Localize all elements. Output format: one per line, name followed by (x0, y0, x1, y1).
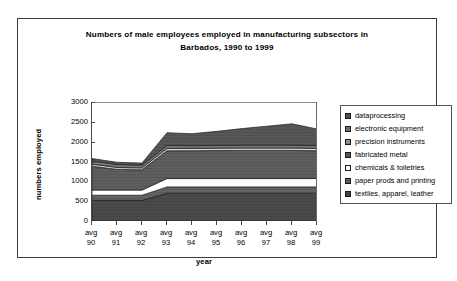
legend-item[interactable]: precision instruments (344, 135, 448, 148)
y-axis-tick-label: 0 (42, 217, 88, 225)
legend-label: fabricated metal (355, 150, 408, 159)
x-tick-label-top: avg (310, 228, 322, 237)
legend-item[interactable]: electronic equipment (344, 122, 448, 135)
stacked-area-plot (92, 102, 317, 221)
legend-label: chemicals & toiletries (355, 163, 424, 172)
chart-title-line-1: Numbers of male employees employed in ma… (86, 30, 368, 39)
legend-label: dataprocessing (355, 111, 405, 120)
x-axis-tick-mark (116, 221, 117, 225)
x-tick-label-top: avg (260, 228, 272, 237)
x-axis-tick-mark (216, 221, 217, 225)
plot-right-border (316, 102, 317, 222)
legend-swatch-icon (345, 126, 351, 132)
legend-item[interactable]: dataprocessing (344, 109, 448, 122)
y-axis-tick-label: 500 (42, 197, 88, 205)
x-axis-tick-mark (91, 221, 92, 225)
legend-item[interactable]: paper prods and printing (344, 174, 448, 187)
y-axis-tick-mark (91, 102, 95, 103)
legend-item[interactable]: textiles, apparel, leather (344, 187, 448, 200)
legend-swatch-icon (345, 165, 351, 171)
x-tick-label-bottom: 99 (301, 238, 331, 248)
y-axis-tick-label: 3000 (42, 98, 88, 106)
y-axis-tick-mark (91, 122, 95, 123)
legend-swatch-icon (345, 139, 351, 145)
x-tick-label-top: avg (135, 228, 147, 237)
x-tick-label-top: avg (110, 228, 122, 237)
x-axis-tick-mark (316, 221, 317, 225)
legend-item[interactable]: chemicals & toiletries (344, 161, 448, 174)
plot-area (91, 102, 316, 221)
x-axis-tick-mark (291, 221, 292, 225)
x-axis-tick-mark (191, 221, 192, 225)
legend-swatch-icon (345, 178, 351, 184)
legend-swatch-icon (345, 191, 351, 197)
legend-label: textiles, apparel, leather (355, 189, 433, 198)
x-axis-title: year (91, 257, 317, 266)
legend-label: paper prods and printing (355, 176, 435, 185)
chart-legend: dataprocessingelectronic equipmentprecis… (340, 105, 452, 204)
y-axis-tick-labels: 050010001500200025003000 (38, 19, 88, 257)
legend-label: precision instruments (355, 137, 425, 146)
y-axis-tick-mark (91, 162, 95, 163)
y-axis-tick-mark (91, 201, 95, 202)
chart-figure-frame: Numbers of male employees employed in ma… (17, 18, 437, 258)
x-tick-label-top: avg (185, 228, 197, 237)
x-tick-label-top: avg (210, 228, 222, 237)
legend-item[interactable]: fabricated metal (344, 148, 448, 161)
x-axis-tick-mark (166, 221, 167, 225)
x-axis-tick-mark (141, 221, 142, 225)
y-axis-tick-label: 2000 (42, 138, 88, 146)
y-axis-tick-mark (91, 142, 95, 143)
y-axis-tick-mark (91, 181, 95, 182)
y-axis-tick-label: 1500 (42, 158, 88, 166)
legend-swatch-icon (345, 113, 351, 119)
legend-label: electronic equipment (355, 124, 423, 133)
y-axis-tick-label: 2500 (42, 118, 88, 126)
x-tick-label-top: avg (285, 228, 297, 237)
x-axis-tick-mark (266, 221, 267, 225)
x-axis-tick-label: avg99 (301, 228, 331, 248)
y-axis-tick-label: 1000 (42, 177, 88, 185)
legend-swatch-icon (345, 152, 351, 158)
plot-top-border (91, 102, 317, 103)
x-tick-label-top: avg (235, 228, 247, 237)
x-axis-tick-mark (241, 221, 242, 225)
x-tick-label-top: avg (160, 228, 172, 237)
x-tick-label-top: avg (85, 228, 97, 237)
